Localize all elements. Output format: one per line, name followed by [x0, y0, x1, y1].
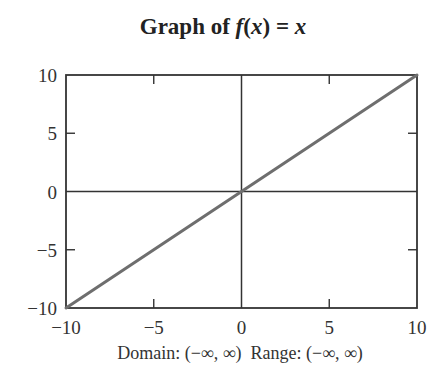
x-tick-label: 5 [325, 317, 335, 338]
domain-value: (−∞, ∞) [185, 343, 242, 363]
y-tick-label: 10 [38, 65, 57, 86]
range-value: (−∞, ∞) [306, 343, 363, 363]
x-tick-label: −5 [144, 317, 164, 338]
plot-area: −10−50510 −10−50510 [0, 0, 446, 391]
y-tick-label: 5 [48, 123, 58, 144]
x-tick-label: −10 [51, 317, 81, 338]
range-label: Range: [251, 343, 302, 363]
y-tick-label: 0 [48, 182, 58, 203]
x-tick-label: 0 [237, 317, 247, 338]
x-tick-labels: −10−50510 [51, 317, 426, 338]
caption: Domain: (−∞, ∞) Range: (−∞, ∞) [60, 343, 420, 364]
domain-label: Domain: [117, 343, 180, 363]
y-tick-label: −10 [27, 298, 57, 319]
x-tick-label: 10 [408, 317, 427, 338]
y-tick-label: −5 [37, 240, 57, 261]
y-tick-labels: −10−50510 [27, 65, 57, 319]
